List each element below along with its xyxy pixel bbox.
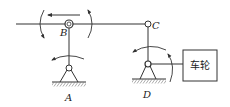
linkage-diagram: B A C D 车轮 (0, 0, 230, 107)
ground-support-d (140, 66, 156, 79)
ground-hatch-d (132, 80, 166, 84)
label-a: A (64, 92, 72, 103)
joint-c-pin (145, 21, 151, 27)
label-c: C (152, 20, 160, 31)
label-d: D (142, 89, 151, 100)
label-b: B (59, 27, 67, 38)
ground-hatch-a (52, 83, 86, 87)
wheel-box-label: 车轮 (190, 59, 210, 71)
arrow-rotation-above-A (52, 56, 84, 60)
arrow-rotation-right-of-D (168, 54, 173, 82)
arrow-rotation-above-D (133, 46, 166, 52)
ground-support-a (60, 70, 78, 82)
